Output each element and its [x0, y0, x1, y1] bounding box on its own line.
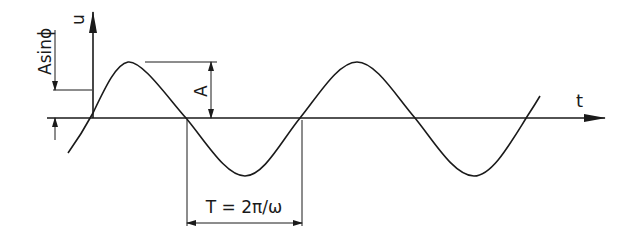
sine-wave-diagram: Asinϕ A T = 2π/ω u t	[0, 0, 636, 236]
amplitude-label: A	[191, 85, 211, 97]
u-axis-label: u	[68, 14, 88, 25]
sine-curve	[68, 62, 540, 176]
phase-offset-label: Asinϕ	[35, 28, 55, 75]
period-label: T = 2π/ω	[205, 197, 282, 217]
t-axis-label: t	[576, 90, 583, 111]
